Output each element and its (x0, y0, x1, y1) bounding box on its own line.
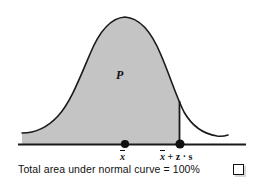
square-end-of-proof-marker-icon (233, 164, 244, 175)
normal-curve-plot (0, 0, 261, 186)
axis-label-upper-bound: x + z · s (160, 150, 192, 162)
mean-dot (121, 140, 129, 148)
upper-bound-dot (175, 139, 184, 148)
figure-caption: Total area under normal curve = 100% (0, 164, 218, 176)
mean-base-letter: x (120, 150, 125, 162)
normal-curve-figure: P x x + z · s Total area under normal cu… (0, 0, 261, 186)
shaded-area-p (22, 17, 179, 144)
upper-bound-suffix: + z · s (165, 151, 192, 162)
area-label-p: P (116, 69, 123, 81)
axis-label-mean: x (120, 150, 125, 162)
